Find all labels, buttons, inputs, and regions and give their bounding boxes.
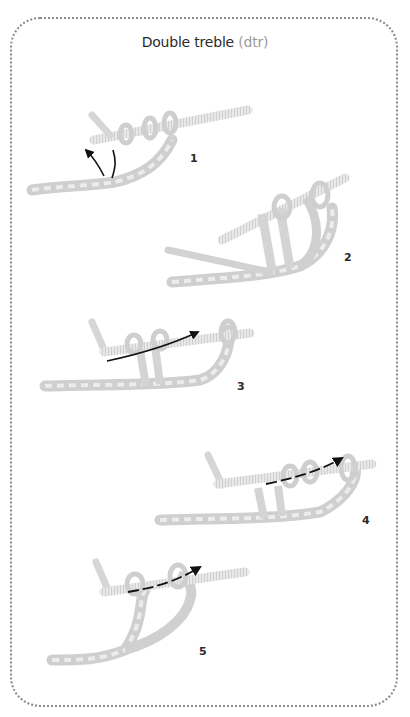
step-number-4: 4 (362, 514, 370, 527)
step-5-illustration (52, 562, 245, 660)
step-1-illustration (32, 110, 248, 190)
step-number-2: 2 (344, 251, 352, 264)
step-number-1: 1 (190, 152, 198, 165)
step-2-illustration (168, 178, 345, 282)
step-3-illustration (45, 321, 250, 386)
step-4-illustration (160, 455, 372, 520)
crochet-illustrations (0, 0, 410, 717)
step-number-3: 3 (237, 380, 245, 393)
step-number-5: 5 (199, 645, 207, 658)
